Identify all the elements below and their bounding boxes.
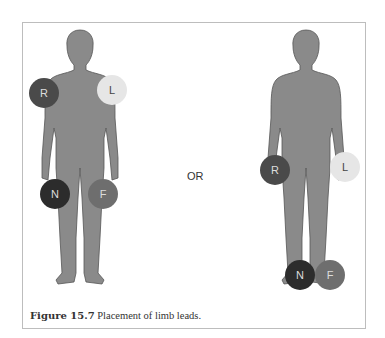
electrode-label: L [342, 161, 348, 173]
electrode-label: R [40, 87, 48, 99]
electrode-l-right: L [330, 152, 360, 182]
electrode-r-right: R [260, 155, 290, 185]
electrode-l-left: L [97, 75, 127, 105]
electrode-r-left: R [29, 78, 59, 108]
electrode-f-left: F [88, 179, 118, 209]
electrode-n-left: N [40, 179, 70, 209]
electrode-label: N [296, 269, 304, 281]
caption-number: Figure 15.7 [30, 310, 95, 321]
or-separator: OR [187, 170, 204, 182]
electrode-label: N [51, 188, 59, 200]
figure-caption: Figure 15.7 Placement of limb leads. [30, 310, 201, 321]
caption-text: Placement of limb leads. [97, 310, 201, 321]
electrode-n-right: N [285, 260, 315, 290]
electrode-label: F [100, 188, 107, 200]
body-silhouette-left [30, 28, 130, 308]
electrode-label: R [271, 164, 279, 176]
electrode-f-right: F [315, 260, 345, 290]
electrode-label: L [109, 84, 115, 96]
electrode-label: F [327, 269, 334, 281]
